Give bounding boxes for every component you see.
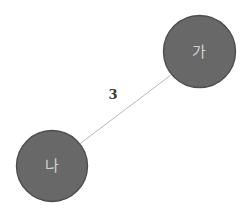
graph-canvas: 가 나 3 bbox=[0, 0, 245, 214]
edge-ga-na-weight-label: 3 bbox=[108, 87, 117, 102]
graph-svg: 가 나 3 bbox=[0, 0, 245, 214]
edge-ga-na[interactable] bbox=[80, 75, 172, 144]
node-ga-label: 가 bbox=[192, 43, 206, 61]
node-na-label: 나 bbox=[45, 157, 59, 175]
